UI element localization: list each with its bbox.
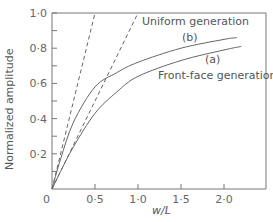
x-tick-label: 0 [43, 193, 50, 206]
y-tick-label: 0·6 [30, 77, 48, 90]
annotation-a: (a) [205, 53, 220, 66]
chart: 0·20·40·60·81·0 00·51·01·52·0 Uniform ge… [0, 0, 273, 222]
annotation-uniform: Uniform generation [142, 15, 249, 28]
annotation-front-face: Front-face generation [158, 69, 273, 82]
x-tick-label: 1·0 [129, 193, 147, 206]
x-axis-label: w/L [152, 204, 171, 217]
annotation-b: (b) [182, 31, 198, 44]
x-tick-label: 2·0 [215, 193, 233, 206]
y-tick-label: 1·0 [30, 7, 48, 20]
y-tick-label: 0·4 [30, 113, 48, 126]
y-tick-label: 0·2 [30, 148, 48, 161]
y-axis-label: Normalized amplitude [3, 48, 16, 170]
x-tick-label: 1·5 [172, 193, 190, 206]
series-line-0 [52, 13, 95, 189]
x-tick-label: 0·5 [86, 193, 104, 206]
series-line-3 [52, 46, 241, 189]
y-tick-label: 0·8 [30, 42, 48, 55]
series [52, 13, 241, 189]
y-ticks: 0·20·40·60·81·0 [30, 7, 58, 171]
x-ticks: 00·51·01·52·0 [43, 184, 233, 206]
